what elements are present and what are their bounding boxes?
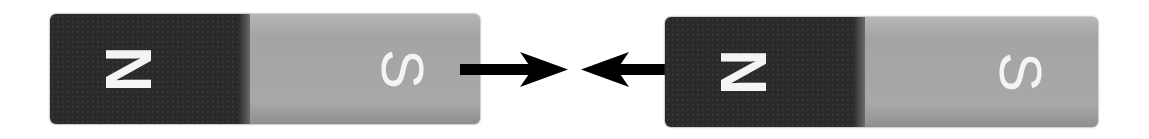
south-label: S [986, 52, 1055, 92]
left-magnet-south-pole: S [250, 14, 480, 124]
right-magnet-south-pole: S [865, 17, 1098, 127]
south-label: S [368, 49, 437, 89]
left-magnet-north-pole: N [50, 14, 250, 124]
north-label: N [91, 46, 165, 92]
right-magnet: N S [665, 17, 1098, 127]
left-magnet: N S [50, 14, 480, 124]
north-label: N [706, 49, 780, 95]
right-magnet-north-pole: N [665, 17, 865, 127]
arrow-right-icon [460, 52, 570, 88]
